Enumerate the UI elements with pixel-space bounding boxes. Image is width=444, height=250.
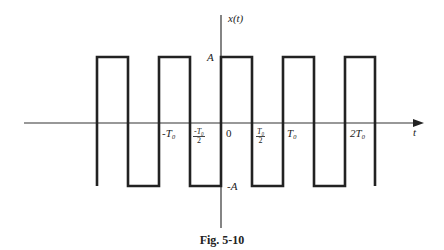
tick-neg-T0: -T₀ bbox=[162, 128, 176, 139]
amplitude-neg-label: -A bbox=[227, 181, 237, 192]
tick-zero: 0 bbox=[226, 128, 232, 139]
tick-T0: T₀ bbox=[287, 128, 297, 139]
t-axis-label: t bbox=[413, 127, 416, 138]
tick-neg-half-denominator: 2 bbox=[193, 137, 205, 145]
amplitude-pos-label: A bbox=[207, 52, 214, 63]
y-axis-label: x(t) bbox=[228, 13, 243, 24]
square-wave-trace bbox=[97, 57, 375, 186]
tick-half-T0: T₀ 2 bbox=[256, 128, 265, 145]
figure-caption: Fig. 5-10 bbox=[0, 233, 444, 248]
square-wave-plot bbox=[0, 0, 444, 250]
tick-2T0: 2T₀ bbox=[350, 128, 365, 139]
tick-half-denominator: 2 bbox=[256, 137, 265, 145]
tick-neg-half-T0: -T₀ 2 bbox=[193, 128, 205, 145]
